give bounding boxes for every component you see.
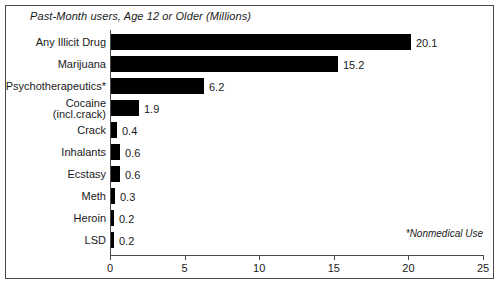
- x-axis-tick: [408, 255, 409, 260]
- bar-value-label: 0.6: [125, 147, 140, 159]
- category-label: Meth: [0, 191, 106, 202]
- bar-value-label: 6.2: [209, 81, 224, 93]
- category-label: Ecstasy: [0, 169, 106, 180]
- x-axis-tick-label: 15: [328, 262, 340, 274]
- bar-value-label: 0.4: [122, 125, 137, 137]
- bar-value-label: 0.2: [119, 213, 134, 225]
- bar-row: Psychotherapeutics*6.2: [0, 77, 501, 99]
- x-axis-tick-label: 0: [107, 262, 113, 274]
- bar-row: Marijuana15.2: [0, 55, 501, 77]
- bar-value-label: 0.2: [119, 235, 134, 247]
- bar-row: Ecstasy0.6: [0, 165, 501, 187]
- x-axis-line: [110, 255, 483, 256]
- x-axis-tick: [185, 255, 186, 260]
- bar-row: Cocaine(incl.crack)1.9: [0, 99, 501, 121]
- category-label: Inhalants: [0, 147, 106, 158]
- x-axis-tick: [259, 255, 260, 260]
- bar: [111, 166, 120, 182]
- category-label: Psychotherapeutics*: [0, 81, 106, 92]
- category-label: Marijuana: [0, 59, 106, 70]
- bar-row: Any Illicit Drug20.1: [0, 33, 501, 55]
- category-label: Cocaine(incl.crack): [0, 98, 106, 120]
- x-axis-tick-label: 20: [402, 262, 414, 274]
- x-axis-tick: [334, 255, 335, 260]
- bar-row: Meth0.3: [0, 187, 501, 209]
- bar: [111, 144, 120, 160]
- x-axis-tick-label: 10: [253, 262, 265, 274]
- category-label: Any Illicit Drug: [0, 37, 106, 48]
- plot-area: 0510152025 Any Illicit Drug20.1Marijuana…: [0, 0, 501, 286]
- bar-row: Inhalants0.6: [0, 143, 501, 165]
- bar: [111, 210, 114, 226]
- bar-value-label: 0.3: [120, 191, 135, 203]
- bar-value-label: 20.1: [416, 37, 437, 49]
- x-axis-tick: [110, 255, 111, 260]
- category-label-line2: (incl.crack): [0, 109, 106, 120]
- bar: [111, 56, 338, 72]
- bar: [111, 232, 114, 248]
- bar-value-label: 1.9: [144, 103, 159, 115]
- bar: [111, 100, 139, 116]
- bar: [111, 122, 117, 138]
- bar-row: Crack0.4: [0, 121, 501, 143]
- bar: [111, 188, 115, 204]
- category-label: Crack: [0, 125, 106, 136]
- category-label: LSD: [0, 235, 106, 246]
- category-label: Heroin: [0, 213, 106, 224]
- bar-value-label: 15.2: [343, 59, 364, 71]
- bar-chart-figure: Past-Month users, Age 12 or Older (Milli…: [0, 0, 501, 286]
- footnote: *Nonmedical Use: [406, 228, 483, 239]
- bar-value-label: 0.6: [125, 169, 140, 181]
- x-axis-tick-label: 25: [477, 262, 489, 274]
- bar: [111, 34, 411, 50]
- bar: [111, 78, 204, 94]
- x-axis-tick-label: 5: [182, 262, 188, 274]
- x-axis-tick: [483, 255, 484, 260]
